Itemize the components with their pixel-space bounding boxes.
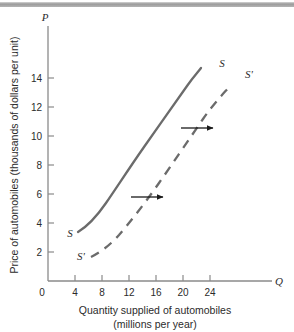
x-tick-label-12: 12 (123, 287, 135, 298)
y-axis-ticks (48, 78, 54, 252)
x-axis-title-line1: Quantity supplied of automobiles (79, 304, 231, 316)
x-axis-ticks (75, 275, 210, 281)
supply-shift-figure: 14 12 10 8 6 4 2 0 4 8 12 16 20 24 P Q (0, 0, 294, 332)
supply-curve-chart: 14 12 10 8 6 4 2 0 4 8 12 16 20 24 P Q (0, 0, 294, 332)
supply-curve-s (78, 68, 201, 232)
x-tick-label-8: 8 (99, 287, 105, 298)
y-tick-label-10: 10 (31, 131, 43, 142)
y-axis-symbol-P: P (41, 11, 49, 23)
x-tick-label-24: 24 (204, 287, 216, 298)
supply-curve-s-prime (91, 86, 230, 257)
y-tick-label-2: 2 (36, 247, 42, 258)
axes-group (48, 26, 272, 281)
curve-label-s-bottom: S (67, 227, 73, 239)
x-tick-label-20: 20 (177, 287, 189, 298)
x-tick-label-16: 16 (150, 287, 162, 298)
y-tick-label-4: 4 (36, 218, 42, 229)
y-axis-title: Price of automobiles (thousands of dolla… (8, 37, 20, 274)
origin-label-0: 0 (39, 287, 45, 298)
x-axis-symbol-Q: Q (275, 275, 283, 287)
y-tick-label-8: 8 (36, 160, 42, 171)
curve-label-s-prime-top: S' (245, 68, 254, 80)
curve-label-s-top: S (219, 57, 225, 69)
y-tick-label-12: 12 (31, 102, 43, 113)
y-tick-label-14: 14 (31, 73, 43, 84)
x-axis-title-line2: (millions per year) (113, 318, 196, 330)
y-tick-label-6: 6 (36, 189, 42, 200)
x-tick-label-4: 4 (72, 287, 78, 298)
curve-label-s-prime-bottom: S' (77, 250, 86, 262)
